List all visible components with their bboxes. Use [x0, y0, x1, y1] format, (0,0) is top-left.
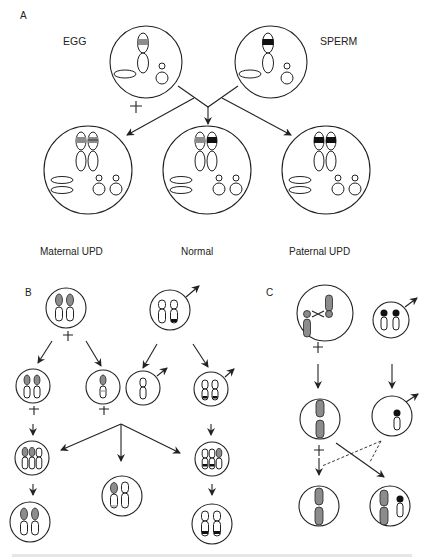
b-trisomy-paternal	[195, 442, 229, 476]
panel-a-label: A	[20, 10, 27, 21]
outcome-label-normal: Normal	[181, 246, 213, 257]
c-sperm-cell	[372, 394, 418, 436]
c-mother-cell	[297, 285, 353, 353]
panel-b-label: B	[25, 287, 32, 298]
female-symbol-icon	[314, 445, 324, 456]
outcome-label-maternal-upd: Maternal UPD	[40, 246, 103, 257]
female-symbol-icon	[29, 406, 39, 415]
egg-label: EGG	[63, 35, 86, 47]
male-symbol-icon	[225, 369, 234, 377]
male-symbol-icon	[186, 286, 199, 297]
male-symbol-icon	[406, 394, 418, 402]
b-disomic-sperm	[194, 369, 234, 406]
male-symbol-icon	[157, 368, 167, 376]
outcome-label-paternal-upd: Paternal UPD	[289, 246, 350, 257]
b-paternal-upd-result	[192, 504, 232, 544]
b-father-cell	[150, 286, 199, 330]
male-symbol-icon	[405, 298, 417, 307]
sperm-cell	[235, 26, 307, 98]
b-recombinant-rescue	[102, 476, 142, 516]
female-symbol-icon	[63, 331, 73, 341]
caption-residue	[12, 554, 412, 557]
maternal-upd-zygote	[44, 126, 132, 214]
female-symbol-icon	[313, 342, 323, 353]
b-maternal-upd-result	[10, 502, 50, 542]
b-mother-cell	[46, 288, 86, 341]
egg-cell	[110, 26, 182, 113]
b-disomic-egg	[16, 369, 50, 415]
female-symbol-icon	[130, 101, 142, 113]
sperm-label: SPERM	[320, 35, 357, 47]
c-father-cell	[373, 298, 417, 338]
paternal-upd-zygote	[282, 126, 370, 214]
b-recombinant-egg	[86, 370, 120, 415]
c-maternal-upd-result	[299, 486, 339, 526]
female-symbol-icon	[99, 406, 109, 415]
b-nullisomic-sperm	[126, 368, 167, 405]
normal-zygote	[163, 126, 251, 214]
b-trisomy-maternal	[15, 441, 49, 475]
panel-c-label: C	[266, 287, 273, 298]
upd-diagram: A EGG SPERM	[0, 0, 435, 559]
c-trisomy-result	[370, 486, 410, 526]
c-isochromosome-egg	[300, 399, 340, 456]
